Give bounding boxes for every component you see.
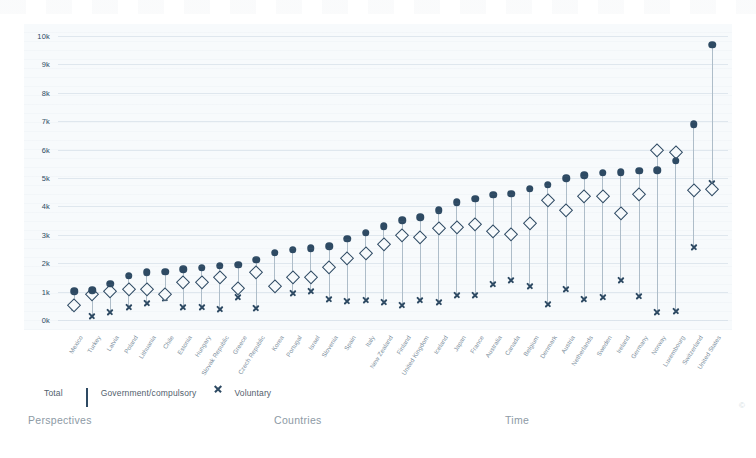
marker-voluntary[interactable] (216, 305, 224, 313)
marker-total[interactable] (672, 157, 680, 165)
marker-government-compulsory[interactable] (614, 206, 627, 219)
marker-government-compulsory[interactable] (414, 230, 427, 243)
marker-total[interactable] (708, 41, 716, 49)
x-axis-label[interactable]: Sweden (594, 334, 612, 357)
marker-total[interactable] (635, 167, 643, 175)
marker-government-compulsory[interactable] (195, 275, 208, 288)
marker-voluntary[interactable] (198, 303, 206, 311)
marker-voluntary[interactable] (653, 308, 661, 316)
marker-total[interactable] (471, 195, 479, 203)
marker-voluntary[interactable] (617, 276, 625, 284)
marker-total[interactable] (417, 213, 425, 221)
marker-total[interactable] (599, 169, 607, 177)
marker-government-compulsory[interactable] (213, 270, 226, 283)
marker-government-compulsory[interactable] (468, 217, 481, 230)
marker-total[interactable] (617, 169, 625, 177)
marker-government-compulsory[interactable] (177, 275, 190, 288)
x-axis-label[interactable]: Finland (395, 334, 412, 356)
marker-total[interactable] (654, 166, 662, 174)
x-axis-label[interactable]: Poland (122, 334, 138, 355)
x-axis-label[interactable]: Denmark (538, 334, 558, 360)
marker-total[interactable] (526, 185, 534, 193)
marker-total[interactable] (70, 288, 78, 296)
x-axis-label[interactable]: Portugal (284, 334, 303, 358)
marker-voluntary[interactable] (325, 295, 333, 303)
marker-voluntary[interactable] (690, 243, 698, 251)
marker-total[interactable] (380, 223, 388, 231)
tab-countries[interactable]: Countries (274, 414, 322, 426)
x-axis-label[interactable]: Chile (161, 334, 175, 350)
x-axis-label[interactable]: Norway (650, 334, 667, 356)
marker-total[interactable] (398, 216, 406, 224)
marker-total[interactable] (453, 198, 461, 206)
x-axis-label[interactable]: Japan (452, 334, 467, 352)
marker-total[interactable] (216, 262, 224, 270)
marker-voluntary[interactable] (398, 301, 406, 309)
legend-item-government-compulsory[interactable]: Government/compulsory (85, 388, 197, 398)
marker-voluntary[interactable] (289, 289, 297, 297)
marker-government-compulsory[interactable] (432, 222, 445, 235)
marker-voluntary[interactable] (307, 287, 315, 295)
marker-voluntary[interactable] (453, 291, 461, 299)
marker-total[interactable] (581, 171, 589, 179)
marker-voluntary[interactable] (179, 303, 187, 311)
marker-voluntary[interactable] (252, 304, 260, 312)
marker-voluntary[interactable] (489, 280, 497, 288)
marker-total[interactable] (198, 264, 206, 272)
x-axis-label[interactable]: Canada (504, 334, 522, 357)
marker-government-compulsory[interactable] (450, 220, 463, 233)
marker-total[interactable] (271, 249, 279, 257)
marker-government-compulsory[interactable] (286, 271, 299, 284)
x-axis-label[interactable]: Belgium (521, 334, 539, 357)
marker-government-compulsory[interactable] (505, 227, 518, 240)
marker-total[interactable] (325, 242, 333, 250)
marker-total[interactable] (435, 206, 443, 214)
marker-total[interactable] (362, 229, 370, 237)
x-axis-label[interactable]: Italy (363, 334, 375, 348)
legend-item-voluntary[interactable]: Voluntary (218, 388, 271, 398)
marker-voluntary[interactable] (362, 296, 370, 304)
x-axis-label[interactable]: Israel (307, 334, 321, 351)
marker-voluntary[interactable] (562, 285, 570, 293)
marker-voluntary[interactable] (544, 300, 552, 308)
marker-government-compulsory[interactable] (359, 247, 372, 260)
x-axis-label[interactable]: Ireland (614, 334, 630, 354)
marker-total[interactable] (690, 120, 698, 128)
marker-voluntary[interactable] (672, 307, 680, 315)
marker-total[interactable] (234, 261, 242, 269)
marker-government-compulsory[interactable] (395, 229, 408, 242)
marker-voluntary[interactable] (125, 303, 133, 311)
marker-government-compulsory[interactable] (651, 143, 664, 156)
x-axis-label[interactable]: Germany (629, 334, 649, 360)
marker-total[interactable] (88, 287, 96, 295)
x-axis-label[interactable]: Greece (231, 334, 248, 355)
marker-government-compulsory[interactable] (122, 283, 135, 296)
marker-government-compulsory[interactable] (140, 283, 153, 296)
marker-voluntary[interactable] (507, 276, 515, 284)
marker-total[interactable] (161, 268, 169, 276)
x-axis-label[interactable]: Spain (343, 334, 358, 352)
marker-government-compulsory[interactable] (322, 260, 335, 273)
marker-voluntary[interactable] (599, 293, 607, 301)
x-axis-label[interactable]: France (468, 334, 484, 355)
marker-voluntary[interactable] (580, 295, 588, 303)
x-axis-label[interactable]: Lithuania (137, 334, 157, 360)
marker-government-compulsory[interactable] (596, 189, 609, 202)
x-axis-label[interactable]: Austria (560, 334, 577, 355)
x-axis-label[interactable]: Iceland (432, 334, 449, 355)
x-axis-label[interactable]: Slovenia (320, 334, 339, 359)
x-axis-label[interactable]: Mexico (67, 334, 84, 355)
marker-government-compulsory[interactable] (250, 265, 263, 278)
marker-government-compulsory[interactable] (304, 270, 317, 283)
marker-government-compulsory[interactable] (559, 203, 572, 216)
marker-voluntary[interactable] (435, 298, 443, 306)
marker-voluntary[interactable] (343, 297, 351, 305)
marker-total[interactable] (508, 190, 516, 198)
x-axis-label[interactable]: Turkey (86, 334, 102, 354)
tab-perspectives[interactable]: Perspectives (28, 414, 92, 426)
marker-voluntary[interactable] (143, 299, 151, 307)
marker-total[interactable] (307, 244, 315, 252)
x-axis-label[interactable]: Australia (484, 334, 503, 359)
marker-voluntary[interactable] (380, 298, 388, 306)
marker-voluntary[interactable] (471, 291, 479, 299)
